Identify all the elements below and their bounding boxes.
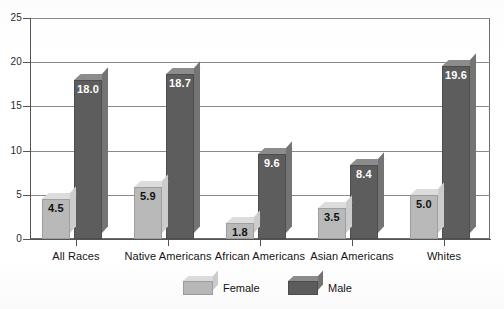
bar-side-face <box>194 61 200 233</box>
bar-male: 19.6 <box>442 66 470 239</box>
y-axis-tick <box>23 195 31 196</box>
bar-female: 1.8 <box>226 223 254 239</box>
y-axis-tick <box>23 151 31 152</box>
bar-value-label: 4.5 <box>42 202 70 214</box>
y-axis-tick-label: 0 <box>0 234 22 244</box>
bar-chart: 0510152025 4.518.05.918.71.89.63.58.45.0… <box>0 0 504 309</box>
bar-side-face <box>102 67 108 233</box>
male-swatch-icon <box>288 281 318 295</box>
bar-value-label: 19.6 <box>442 69 470 81</box>
female-swatch-icon <box>183 281 213 295</box>
bar-male: 9.6 <box>258 154 286 239</box>
bar-female: 3.5 <box>318 208 346 239</box>
bar-value-label: 8.4 <box>350 168 378 180</box>
y-axis-tick-label: 15 <box>0 101 22 111</box>
y-axis-tick-label: 25 <box>0 13 22 23</box>
bar-value-label: 5.9 <box>134 190 162 202</box>
bar-value-label: 5.0 <box>410 198 438 210</box>
bar-side-face <box>438 182 444 233</box>
bar-male: 8.4 <box>350 165 378 239</box>
y-axis-tick <box>23 106 31 107</box>
y-axis-tick-label: 5 <box>0 190 22 200</box>
y-axis-tick <box>23 239 31 240</box>
bar-side-face <box>470 53 476 233</box>
bar-value-label: 1.8 <box>226 226 254 238</box>
bar-value-label: 18.7 <box>166 77 194 89</box>
y-axis-tick-label: 10 <box>0 146 22 156</box>
bar-female: 4.5 <box>42 199 70 239</box>
x-axis-tick <box>76 239 77 246</box>
x-axis-tick <box>260 239 261 246</box>
x-axis-tick <box>168 239 169 246</box>
gridline <box>30 18 490 19</box>
bar-value-label: 18.0 <box>74 83 102 95</box>
bar-front-face <box>74 80 102 239</box>
bar-value-label: 3.5 <box>318 211 346 223</box>
x-axis-category-label: Whites <box>384 250 504 263</box>
bar-side-face <box>162 174 168 233</box>
bar-value-label: 9.6 <box>258 157 286 169</box>
y-axis-tick <box>23 62 31 63</box>
bar-front-face <box>166 74 194 239</box>
legend-label-female: Female <box>223 282 260 295</box>
bar-front-face <box>442 66 470 239</box>
legend-label-male: Male <box>328 282 352 295</box>
legend-item-male[interactable]: Male <box>288 276 352 295</box>
bar-female: 5.0 <box>410 195 438 239</box>
y-axis-tick <box>23 18 31 19</box>
y-axis-tick-label: 20 <box>0 57 22 67</box>
bar-female: 5.9 <box>134 187 162 239</box>
bar-side-face <box>378 152 384 233</box>
gridline <box>30 62 490 63</box>
bar-male: 18.0 <box>74 80 102 239</box>
x-axis-tick <box>444 239 445 246</box>
chart-legend: Female Male <box>0 276 504 302</box>
bar-side-face <box>70 187 76 233</box>
bar-side-face <box>286 141 292 233</box>
bar-male: 18.7 <box>166 74 194 239</box>
legend-item-female[interactable]: Female <box>183 276 260 295</box>
x-axis-tick <box>352 239 353 246</box>
y-axis-line <box>30 18 31 240</box>
